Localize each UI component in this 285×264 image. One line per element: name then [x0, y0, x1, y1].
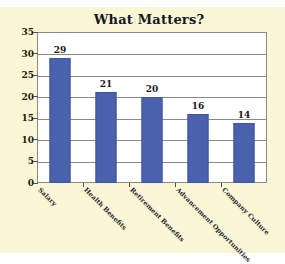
y-axis-tick-labels: 35302520151050 [8, 32, 34, 183]
bar-slot: 20 [129, 32, 175, 183]
bar-slot: 16 [175, 32, 221, 183]
y-axis-tick-label: 35 [10, 27, 34, 37]
category-label: Health Benefits [82, 186, 128, 232]
bar-value-label: 14 [238, 110, 251, 120]
y-axis-tick-mark [33, 53, 38, 54]
bar-slot: 29 [37, 32, 83, 183]
y-axis-tick-label: 30 [10, 49, 34, 59]
bars-layer: 2921201614 [37, 32, 267, 183]
y-axis-tick-mark [33, 183, 38, 184]
bar[interactable] [96, 92, 117, 183]
y-axis-tick-mark [33, 139, 38, 140]
y-axis-tick-label: 25 [10, 70, 34, 80]
x-axis-category-labels: SalaryHealth BenefitsRetirement Benefits… [37, 186, 277, 252]
bar[interactable] [188, 114, 209, 183]
y-axis-tick-mark [33, 161, 38, 162]
y-axis-tick-mark [33, 96, 38, 97]
y-axis-tick-mark [33, 118, 38, 119]
bar-value-label: 16 [192, 101, 205, 111]
bar-slot: 14 [221, 32, 267, 183]
chart-title: What Matters? [30, 12, 268, 27]
bar-value-label: 29 [54, 45, 67, 55]
bar-value-label: 20 [146, 84, 159, 94]
y-axis-tick-label: 0 [10, 178, 34, 188]
y-axis-tick-label: 5 [10, 156, 34, 166]
y-axis-tick-mark [33, 32, 38, 33]
category-label: Company Culture [220, 186, 271, 237]
category-label: Salary [36, 186, 58, 208]
bar-slot: 21 [83, 32, 129, 183]
bar[interactable] [142, 97, 163, 183]
y-axis-tick-label: 10 [10, 135, 34, 145]
y-axis-tick-label: 20 [10, 92, 34, 102]
bar[interactable] [234, 123, 255, 183]
bar[interactable] [50, 58, 71, 183]
y-axis-tick-label: 15 [10, 113, 34, 123]
bar-value-label: 21 [100, 79, 113, 89]
y-axis-tick-mark [33, 75, 38, 76]
